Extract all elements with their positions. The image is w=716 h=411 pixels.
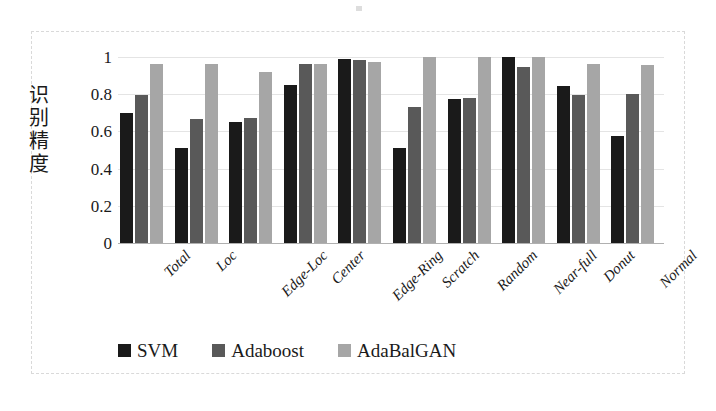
bar (463, 98, 476, 243)
x-tick-label: Total (161, 247, 194, 280)
x-tick-label: Edge-Loc (278, 247, 331, 300)
legend-label: AdaBalGAN (357, 341, 456, 360)
chart-legend: SVMAdaboostAdaBalGAN (118, 338, 618, 362)
plot-area (118, 57, 664, 243)
bars-layer (118, 57, 664, 243)
bar (572, 95, 585, 243)
bar (587, 64, 600, 243)
y-tick-label: 0 (72, 235, 112, 252)
bar (338, 59, 351, 243)
bar (393, 148, 406, 243)
bar (641, 65, 654, 243)
x-tick-label: Random (494, 247, 541, 294)
bar (517, 67, 530, 243)
bar-group (446, 57, 501, 243)
x-axis-line (118, 243, 664, 244)
legend-item: AdaBalGAN (338, 341, 456, 360)
bar (299, 64, 312, 243)
bar-group (555, 57, 610, 243)
y-tick-label: 0.6 (72, 123, 112, 140)
legend-label: SVM (137, 341, 178, 360)
bar (135, 95, 148, 243)
bar-group (173, 57, 228, 243)
bar (478, 57, 491, 243)
legend-item: SVM (118, 341, 178, 360)
bar (502, 57, 515, 243)
bar-group (336, 57, 391, 243)
bar (408, 107, 421, 243)
bar (205, 64, 218, 243)
bar (229, 122, 242, 243)
legend-item: Adaboost (212, 341, 304, 360)
bar (448, 99, 461, 243)
legend-label: Adaboost (231, 341, 304, 360)
x-tick-label: Edge-Ring (389, 247, 446, 304)
legend-swatch-icon (338, 344, 351, 357)
bar-group (118, 57, 173, 243)
bar (557, 86, 570, 243)
y-tick-label: 0.4 (72, 161, 112, 178)
x-tick-label: Donut (600, 247, 638, 285)
bar-group (391, 57, 446, 243)
legend-swatch-icon (118, 344, 131, 357)
y-tick-label: 0.2 (72, 198, 112, 215)
bar (626, 94, 639, 243)
x-tick-label: Loc (213, 247, 240, 274)
y-tick-label: 0.8 (72, 86, 112, 103)
figure-root: 识别精度 00.20.40.60.81 TotalLocEdge-LocCent… (0, 0, 716, 411)
x-tick-label: Near-full (550, 247, 600, 297)
bar (423, 57, 436, 243)
bar (284, 85, 297, 243)
scan-artifact (356, 6, 362, 11)
bar (611, 136, 624, 243)
x-tick-label: Center (328, 247, 368, 287)
x-tick-label: Scratch (438, 247, 482, 291)
y-tick-label: 1 (72, 49, 112, 66)
bar (314, 64, 327, 243)
bar-group (500, 57, 555, 243)
bar (368, 62, 381, 243)
bar-group (609, 57, 664, 243)
bar-group (227, 57, 282, 243)
x-axis-category-labels: TotalLocEdge-LocCenterEdge-RingScratchRa… (118, 247, 664, 322)
bar (259, 72, 272, 243)
bar (244, 118, 257, 243)
y-axis-tick-labels: 00.20.40.60.81 (66, 57, 112, 243)
bar-group (282, 57, 337, 243)
y-axis-title: 识别精度 (24, 84, 54, 176)
bar (353, 60, 366, 243)
bar (120, 113, 133, 243)
legend-swatch-icon (212, 344, 225, 357)
bar (532, 57, 545, 243)
bar (150, 64, 163, 243)
bar (175, 148, 188, 243)
bar (190, 119, 203, 243)
